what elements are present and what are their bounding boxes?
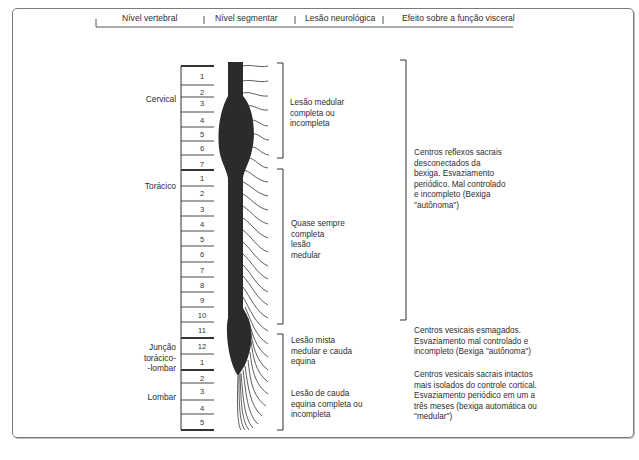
thoracic-segment: 10 bbox=[182, 311, 222, 320]
cervical-segment: 1 bbox=[182, 72, 222, 81]
thoracic-segment: 2 bbox=[182, 189, 222, 198]
effect-intact-centers-text: Centros vesicais sacrais intactos mais i… bbox=[414, 370, 537, 423]
cervical-segment: 6 bbox=[182, 144, 222, 153]
lumbar-segment: 1 bbox=[182, 358, 222, 367]
thoracic-segment: 9 bbox=[182, 296, 222, 305]
thoracic-segment: 12 bbox=[182, 342, 222, 351]
region-toracico: Torácico bbox=[120, 181, 176, 192]
region-lombar: Lombar bbox=[120, 392, 176, 403]
thoracic-segment: 4 bbox=[182, 220, 222, 229]
lumbar-segment: 2 bbox=[182, 374, 222, 383]
thoracic-segment: 11 bbox=[182, 326, 222, 335]
lesion-mixed-text: Lesão mista medular e cauda equina bbox=[291, 336, 352, 368]
cervical-segment: 5 bbox=[182, 130, 222, 139]
lesion-cervical-text: Lesão medular completa ou incompleta bbox=[290, 98, 344, 130]
thoracic-segment: 1 bbox=[182, 174, 222, 183]
lumbar-segment: 4 bbox=[182, 404, 222, 413]
spinal-cord-shape bbox=[218, 62, 253, 376]
cervical-segment: 2 bbox=[182, 88, 222, 97]
thoracic-segment: 6 bbox=[182, 250, 222, 259]
lumbar-segment: 5 bbox=[182, 418, 222, 427]
thoracic-segment: 3 bbox=[182, 205, 222, 214]
thoracic-segment: 7 bbox=[182, 266, 222, 275]
effect-crushed-centers-text: Centros vesicais esmagados. Esvaziamento… bbox=[414, 326, 531, 358]
thoracic-segment: 8 bbox=[182, 281, 222, 290]
region-juncao-toracico-lombar: Junção torácico- -lombar bbox=[120, 342, 176, 374]
region-cervical: Cervical bbox=[120, 94, 176, 105]
cervical-segment: 4 bbox=[182, 116, 222, 125]
lumbar-segment: 3 bbox=[182, 387, 222, 396]
lesion-thoracic-text: Quase sempre completa lesão medular bbox=[291, 219, 345, 261]
cervical-segment: 3 bbox=[182, 99, 222, 108]
thoracic-segment: 5 bbox=[182, 235, 222, 244]
cervical-segment: 7 bbox=[182, 160, 222, 169]
effect-reflex-centers-text: Centros reflexos sacrais desconectados d… bbox=[414, 148, 505, 212]
lesion-cauda-equina-text: Lesão de cauda equina completa ou incomp… bbox=[291, 389, 362, 421]
